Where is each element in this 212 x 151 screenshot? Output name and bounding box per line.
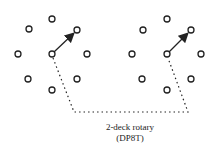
rotor-arrow — [169, 34, 187, 52]
deck-2 — [129, 16, 204, 93]
contact-circle — [25, 76, 31, 82]
contact-circle — [49, 16, 55, 22]
contact-circle — [140, 27, 146, 33]
contact-circle — [49, 87, 55, 93]
rotor-arrow — [54, 34, 73, 52]
contact-circle — [198, 51, 204, 57]
contact-circle — [164, 16, 170, 22]
caption-subtitle: (DP8T) — [60, 133, 200, 144]
contact-circle — [188, 76, 194, 82]
contact-circle — [74, 27, 80, 33]
contact-circle — [84, 51, 90, 57]
contact-circle — [26, 26, 32, 32]
contact-circle — [139, 76, 145, 82]
caption: 2-deck rotary (DP8T) — [60, 122, 200, 144]
contact-circle — [129, 51, 135, 57]
contact-circle — [15, 51, 21, 57]
deck-1 — [15, 16, 90, 93]
caption-title: 2-deck rotary — [60, 122, 200, 133]
contact-circle — [164, 87, 170, 93]
dotted-linkage — [53, 58, 188, 112]
contact-circle — [188, 27, 194, 33]
contact-circle — [74, 76, 80, 82]
